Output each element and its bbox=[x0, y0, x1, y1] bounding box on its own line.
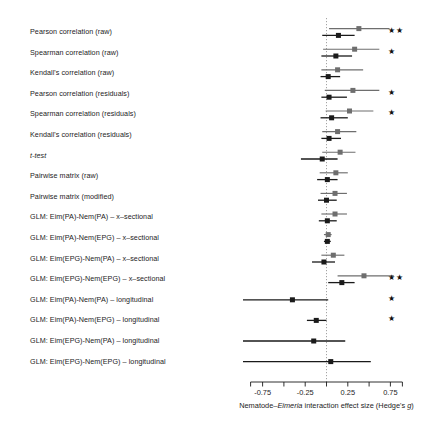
effect-size-marker bbox=[333, 191, 338, 196]
x-axis-label-part: Nematode– bbox=[239, 401, 277, 410]
effect-size-marker bbox=[352, 47, 357, 52]
forest-row bbox=[321, 109, 374, 121]
effect-size-marker bbox=[347, 109, 352, 114]
row-label: GLM: Eim(EPG)-Nem(EPG) – x–sectional bbox=[30, 274, 165, 283]
significance-marker: ★ bbox=[388, 88, 396, 97]
x-tick-label: 0.25 bbox=[341, 388, 355, 397]
effect-size-marker bbox=[339, 280, 344, 285]
row-label: Spearman correlation (residuals) bbox=[30, 109, 136, 118]
effect-size-marker bbox=[327, 95, 332, 100]
row-label: Spearman correlation (raw) bbox=[30, 48, 118, 57]
row-label: GLM: Eim(EPG)-Nem(PA) – x–sectional bbox=[30, 254, 159, 263]
forest-row bbox=[317, 170, 348, 182]
effect-size-marker bbox=[325, 177, 330, 182]
forest-row bbox=[301, 150, 356, 162]
effect-size-marker bbox=[327, 136, 332, 141]
significance-marker: ★ bbox=[388, 294, 396, 303]
x-axis-label-part: ) bbox=[411, 401, 413, 410]
significance-marker: ★★ bbox=[388, 26, 404, 35]
forest-row bbox=[307, 318, 327, 323]
effect-size-marker bbox=[333, 170, 338, 175]
row-label: GLM: Eim(EPG)-Nem(PA) – longitudinal bbox=[30, 336, 159, 345]
effect-size-marker bbox=[311, 339, 316, 344]
forest-row bbox=[243, 297, 328, 302]
forest-row bbox=[324, 232, 332, 244]
effect-size-marker bbox=[338, 150, 343, 155]
forest-plot: Pearson correlation (raw)★★Spearman corr… bbox=[0, 0, 423, 435]
forest-row bbox=[243, 339, 345, 344]
effect-size-marker bbox=[335, 129, 340, 134]
forest-row bbox=[328, 273, 394, 285]
forest-row bbox=[322, 26, 389, 38]
effect-size-marker bbox=[326, 74, 331, 79]
row-label: GLM: Eim(PA)-Nem(PA) – x–sectional bbox=[30, 212, 153, 221]
effect-size-marker bbox=[333, 212, 338, 217]
significance-marker: ★ bbox=[388, 108, 396, 117]
effect-size-marker bbox=[320, 157, 325, 162]
row-label: Pearson correlation (residuals) bbox=[30, 89, 129, 98]
effect-size-marker bbox=[314, 318, 319, 323]
row-label: GLM: Eim(PA)-Nem(PA) – longitudinal bbox=[30, 295, 153, 304]
x-tick-label: 0.75 bbox=[383, 388, 397, 397]
row-label: GLM: Eim(PA)-Nem(EPG) – longitudinal bbox=[30, 315, 159, 324]
forest-row bbox=[321, 47, 379, 59]
effect-size-marker bbox=[336, 33, 341, 38]
effect-size-marker bbox=[329, 115, 334, 120]
x-tick-label: -0.75 bbox=[254, 388, 271, 397]
effect-size-marker bbox=[356, 26, 361, 31]
effect-size-marker bbox=[324, 198, 329, 203]
row-label: Pairwise matrix (raw) bbox=[30, 171, 98, 180]
x-axis-label-part: Eimeria bbox=[277, 401, 302, 410]
forest-row bbox=[318, 191, 347, 203]
effect-size-marker bbox=[350, 88, 355, 93]
effect-size-marker bbox=[321, 260, 326, 265]
effect-size-marker bbox=[333, 54, 338, 59]
effect-size-marker bbox=[328, 359, 333, 364]
row-label: GLM: Eim(EPG)-Nem(EPG) – longitudinal bbox=[30, 357, 166, 366]
row-label: Kendall's correlation (raw) bbox=[30, 68, 114, 77]
x-axis-label: Nematode–Eimeria interaction effect size… bbox=[239, 401, 414, 410]
effect-size-marker bbox=[290, 297, 295, 302]
effect-size-marker bbox=[331, 253, 336, 258]
effect-size-marker bbox=[326, 232, 331, 237]
significance-marker: ★★ bbox=[388, 273, 404, 282]
row-label: Pearson correlation (raw) bbox=[30, 27, 112, 36]
effect-size-marker bbox=[361, 273, 366, 278]
x-axis-label-part: interaction effect size (Hedge's bbox=[302, 401, 407, 410]
effect-size-marker bbox=[325, 239, 330, 244]
row-label: Pairwise matrix (modified) bbox=[30, 192, 114, 201]
row-label: t-test bbox=[30, 151, 46, 160]
row-label: GLM: Eim(PA)-Nem(EPG) – x–sectional bbox=[30, 233, 159, 242]
forest-row bbox=[321, 88, 379, 100]
forest-row bbox=[312, 253, 344, 265]
x-tick-label: -0.25 bbox=[297, 388, 314, 397]
row-label: Kendall's correlation (residuals) bbox=[30, 130, 132, 139]
effect-size-marker bbox=[325, 218, 330, 223]
forest-row bbox=[243, 359, 371, 364]
effect-size-marker bbox=[335, 67, 340, 72]
significance-marker: ★ bbox=[388, 314, 396, 323]
significance-marker: ★ bbox=[388, 47, 396, 56]
forest-row bbox=[319, 212, 347, 224]
